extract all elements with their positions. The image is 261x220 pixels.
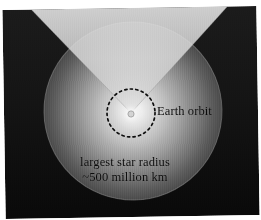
astronomy-figure: Earth orbit largest star radius ~500 mil…	[0, 0, 261, 220]
diagram-canvas	[2, 6, 259, 219]
star-core	[128, 111, 134, 117]
earth-orbit-label: Earth orbit	[157, 104, 212, 119]
star-radius-caption-line2: ~500 million km	[66, 170, 184, 185]
star-radius-caption: largest star radius ~500 million km	[66, 155, 184, 185]
slide-image	[2, 6, 259, 219]
star-radius-caption-line1: largest star radius	[66, 155, 184, 170]
